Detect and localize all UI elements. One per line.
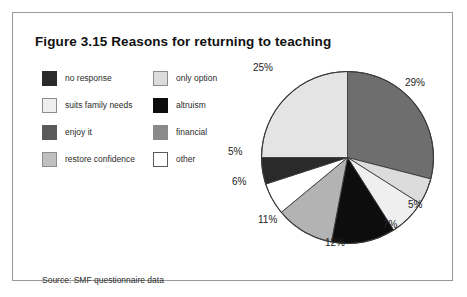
legend-swatch-financial [153,125,168,140]
pie-label-financial: 25% [253,63,273,73]
legend-item-financial[interactable]: financial [153,124,217,140]
pie-label-restore-confidence: 11% [258,215,277,225]
pie-label-altruism: 12% [325,238,345,248]
legend-label-suits-family-needs: suits family needs [65,101,133,110]
pie-slice-financial[interactable] [262,72,348,158]
pie-slice-group [262,72,434,244]
pie-chart-svg [260,70,435,245]
legend-item-no-response[interactable]: no response [42,70,135,86]
legend-item-suits-family-needs[interactable]: suits family needs [42,97,135,113]
legend-label-enjoy-it: enjoy it [65,128,92,137]
source-note: Source: SMF questionnaire data [42,275,164,285]
pie-label-enjoy-it: 29% [405,78,425,88]
legend-swatch-only-option [153,71,168,86]
pie-label-suits-family-needs: 7% [383,220,397,230]
legend-label-only-option: only option [176,74,217,83]
legend-swatch-restore-confidence [42,152,57,167]
legend-label-altruism: altruism [176,101,206,110]
page-title: Figure 3.15 Reasons for returning to tea… [35,34,331,49]
legend-swatch-other [153,152,168,167]
legend-swatch-altruism [153,98,168,113]
legend-column-right: only option altruism financial other [153,70,217,178]
pie-label-no-response: 5% [228,147,242,157]
legend-item-enjoy-it[interactable]: enjoy it [42,124,135,140]
legend-item-other[interactable]: other [153,151,217,167]
legend-label-other: other [176,155,195,164]
legend-label-restore-confidence: restore confidence [65,155,135,164]
legend-label-financial: financial [176,128,207,137]
legend-item-only-option[interactable]: only option [153,70,217,86]
legend-item-restore-confidence[interactable]: restore confidence [42,151,135,167]
pie-label-only-option: 5% [408,200,422,210]
legend-swatch-suits-family-needs [42,98,57,113]
pie-chart [260,70,435,245]
legend-column-left: no response suits family needs enjoy it … [42,70,135,178]
legend-swatch-enjoy-it [42,125,57,140]
legend-item-altruism[interactable]: altruism [153,97,217,113]
pie-label-other: 6% [232,177,246,187]
legend-label-no-response: no response [65,74,112,83]
legend-swatch-no-response [42,71,57,86]
